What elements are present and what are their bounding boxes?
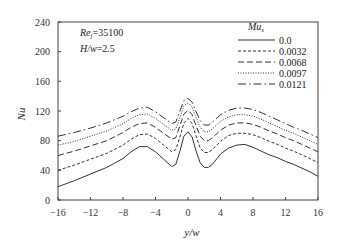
x-tick-label: −16 [50, 207, 66, 218]
legend-label: 0.0097 [279, 68, 307, 79]
x-tick-label: −12 [83, 207, 99, 218]
x-tick-label: 0 [186, 207, 191, 218]
y-axis-label: Nu [15, 107, 27, 121]
x-axis-label: y/w [183, 226, 200, 238]
y-tick-label: 0 [45, 195, 50, 206]
series-line-0.0097 [58, 103, 318, 145]
reynolds-annotation: Rej=35100 [79, 27, 123, 40]
y-tick-label: 120 [35, 106, 50, 117]
y-tick-label: 200 [35, 46, 50, 57]
y-axis: 04080120160200240 [35, 17, 61, 206]
series-line-0.0 [58, 132, 318, 187]
legend-label: 0.0032 [279, 46, 307, 57]
line-chart: 04080120160200240 −16−12−8−40481216 Rej=… [0, 0, 341, 245]
x-tick-label: −8 [118, 207, 129, 218]
legend-label: 0.0 [279, 35, 292, 46]
y-tick-label: 40 [40, 165, 50, 176]
series-group [58, 98, 318, 186]
x-tick-label: 12 [281, 207, 291, 218]
y-tick-label: 80 [40, 135, 50, 146]
series-line-0.0068 [58, 110, 318, 155]
legend-label: 0.0068 [279, 57, 307, 68]
x-tick-label: 16 [313, 207, 323, 218]
x-tick-label: −4 [150, 207, 161, 218]
y-tick-label: 240 [35, 17, 50, 28]
legend-label: 0.0121 [279, 79, 307, 90]
legend: Mus 0.00.00320.00680.00970.0121 [238, 21, 307, 90]
x-tick-label: 8 [251, 207, 256, 218]
y-tick-label: 160 [35, 76, 50, 87]
legend-title: Mus [247, 21, 264, 34]
height-ratio-annotation: H/w=2.5 [79, 43, 115, 54]
x-tick-label: 4 [218, 207, 223, 218]
